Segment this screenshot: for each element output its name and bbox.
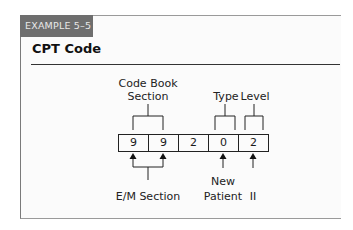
label-level-ii: II <box>243 190 263 203</box>
label-patient: Patient <box>200 190 246 203</box>
label-new: New <box>203 175 243 188</box>
label-em-section: E/M Section <box>110 190 186 203</box>
arrow-up-icons <box>130 153 257 159</box>
